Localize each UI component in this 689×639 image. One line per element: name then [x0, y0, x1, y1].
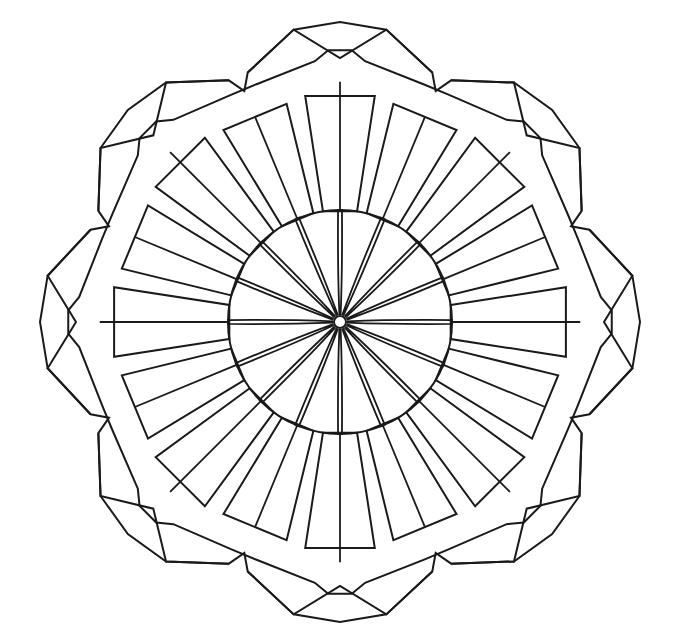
mandala-artwork: Geometric Rosette Mandala Line Drawing — [0, 0, 689, 639]
